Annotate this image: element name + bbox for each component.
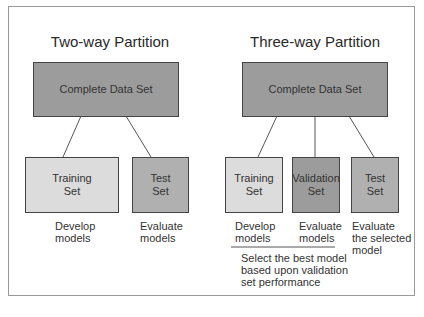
note-line: Select the best model — [241, 252, 348, 264]
caption-line: Develop — [235, 220, 275, 232]
caption-line: models — [140, 232, 183, 244]
caption-line: Develop — [55, 220, 95, 232]
caption-line: model — [352, 244, 411, 256]
caption-line: models — [235, 232, 275, 244]
three-way-test-caption: Evaluate the selected model — [352, 220, 411, 256]
two-way-test-set: TestSet — [132, 157, 189, 213]
box-label: Set — [292, 185, 340, 198]
box-label: Set — [52, 185, 91, 198]
three-way-validation-set: ValidationSet — [292, 157, 340, 213]
three-way-test-set: TestSet — [351, 157, 399, 213]
box-label: Set — [365, 185, 385, 198]
box-label: Training — [234, 172, 273, 185]
box-label: Set — [234, 185, 273, 198]
three-way-selection-note: Select the best model based upon validat… — [241, 252, 348, 288]
box-label: Complete Data Set — [269, 83, 362, 96]
caption-line: Evaluate — [140, 220, 183, 232]
two-way-training-set: TrainingSet — [25, 157, 119, 213]
box-label: Training — [52, 172, 91, 185]
three-way-title: Three-way Partition — [240, 33, 390, 50]
two-way-title: Two-way Partition — [30, 33, 190, 50]
caption-line: models — [299, 232, 342, 244]
two-way-training-caption: Develop models — [55, 220, 95, 244]
note-line: set performance — [241, 276, 348, 288]
caption-line: Evaluate — [299, 220, 342, 232]
two-way-complete-data-set: Complete Data Set — [33, 62, 179, 117]
note-line: based upon validation — [241, 264, 348, 276]
box-label: Complete Data Set — [60, 83, 153, 96]
box-label: Validation — [292, 172, 340, 185]
two-way-test-caption: Evaluate models — [140, 220, 183, 244]
box-label: Set — [150, 185, 170, 198]
caption-line: the selected — [352, 232, 411, 244]
three-way-complete-data-set: Complete Data Set — [242, 62, 388, 117]
box-label: Test — [365, 172, 385, 185]
three-way-training-caption: Develop models — [235, 220, 275, 244]
caption-line: Evaluate — [352, 220, 411, 232]
box-label: Test — [150, 172, 170, 185]
three-way-training-set: TrainingSet — [225, 157, 283, 213]
three-way-validation-caption: Evaluate models — [299, 220, 342, 244]
caption-line: models — [55, 232, 95, 244]
